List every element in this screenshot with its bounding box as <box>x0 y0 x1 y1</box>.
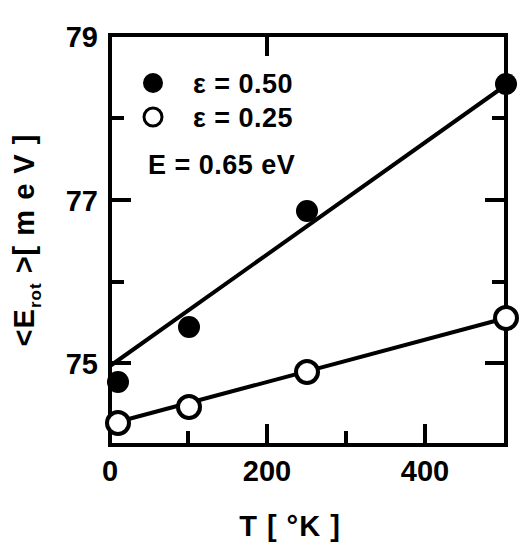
y-axis-title-subscript: rot <box>26 282 45 308</box>
y-axis-title: <Erot >[ m e V ] <box>8 134 45 347</box>
x-tick-label-0: 0 <box>102 455 118 487</box>
y-axis-title-pre: <E <box>8 308 40 346</box>
data-point-filled-3 <box>296 200 318 222</box>
data-point-open-3 <box>296 361 318 383</box>
legend-marker-filled-circle-icon <box>143 73 163 93</box>
legend-label-eps-050: ε = 0.50 <box>193 69 293 99</box>
x-tick-label-400: 400 <box>401 455 449 487</box>
y-tick-label-79: 79 <box>66 21 98 53</box>
svg-text:<Erot >[ m e V ]: <Erot >[ m e V ] <box>8 134 45 347</box>
data-point-filled-4 <box>495 73 517 95</box>
annotation-incident-energy: E = 0.65 eV <box>148 150 295 180</box>
legend-marker-open-circle-icon <box>144 108 162 126</box>
chart-figure: 79 77 75 0 200 400 T [ °K ] <Erot >[ m e… <box>0 0 531 549</box>
y-axis-title-post: >[ m e V ] <box>8 134 40 283</box>
legend-label-eps-025: ε = 0.25 <box>193 103 293 133</box>
data-point-filled-2 <box>178 316 200 338</box>
data-point-open-4 <box>495 307 517 329</box>
data-point-filled-1 <box>107 371 129 393</box>
y-tick-label-77: 77 <box>66 185 98 217</box>
x-tick-label-200: 200 <box>243 455 291 487</box>
rotational-energy-vs-temperature-chart: 79 77 75 0 200 400 T [ °K ] <Erot >[ m e… <box>0 0 531 549</box>
data-point-open-2 <box>178 396 200 418</box>
x-axis-title: T [ °K ] <box>239 510 341 542</box>
y-tick-label-75: 75 <box>66 348 98 380</box>
data-point-open-1 <box>107 412 129 434</box>
